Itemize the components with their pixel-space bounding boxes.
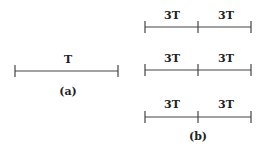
row-3-left-label: 3T: [147, 99, 197, 111]
segment-b-row-1: [145, 21, 251, 33]
row-2-right-label: 3T: [201, 53, 251, 65]
caption-b: (b): [173, 131, 223, 143]
row-1-right-label: 3T: [201, 10, 251, 22]
diagram-lines: [0, 0, 265, 154]
row-1-left-label: 3T: [147, 10, 197, 22]
segment-b-row-3: [145, 111, 251, 123]
segment-a: [15, 65, 118, 77]
segment-b-row-2: [145, 64, 251, 76]
row-2-left-label: 3T: [147, 53, 197, 65]
row-3-right-label: 3T: [201, 99, 251, 111]
caption-a: (a): [43, 86, 93, 98]
segment-a-label: T: [43, 54, 93, 66]
